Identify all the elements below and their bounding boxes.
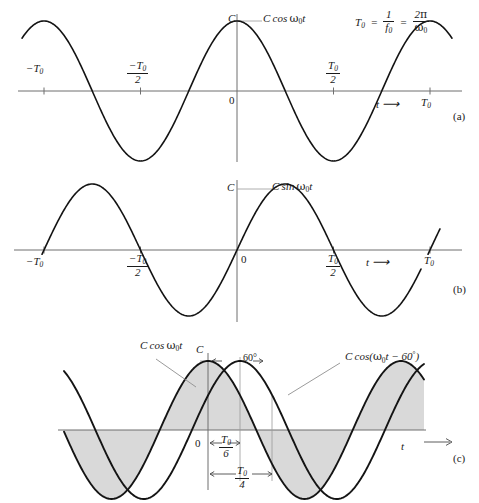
phase-label-c: 60°: [243, 353, 257, 363]
leader-line-cos-shifted-c: [288, 363, 340, 395]
axis-label-b: t ⟶: [366, 256, 389, 268]
dim-label-T0-over-4-c: T04: [235, 465, 249, 491]
origin-label-a: 0: [229, 95, 235, 106]
panel-tag-c: (c): [453, 452, 465, 464]
panel-b-plot: [0, 170, 479, 335]
panel-tag-b: (b): [453, 283, 466, 295]
signal-label-cos-c: C cos ω0t: [140, 340, 182, 353]
origin-label-c: 0: [195, 438, 201, 449]
xtick-label-minus-T0-b: −T0: [26, 256, 43, 269]
xtick-label-T0-b: T0: [424, 255, 434, 268]
origin-label-b: 0: [241, 254, 247, 265]
xtick-label-minus-T0-half-a: −T02: [127, 60, 148, 86]
xtick-label-T0-half-a: T02: [326, 60, 340, 86]
amplitude-label-a: C: [228, 13, 235, 24]
xtick-label-T0-half-b: T02: [326, 253, 340, 279]
amplitude-label-c: C: [196, 344, 203, 355]
t-axis-arrow-c: [424, 439, 452, 446]
xtick-label-minus-T0-half-b: −T02: [127, 253, 148, 279]
amplitude-label-b: C: [227, 182, 234, 193]
signal-label-a: C cos ω0t: [263, 13, 305, 26]
xtick-label-minus-T0-a: −T0: [26, 63, 43, 76]
panel-tag-a: (a): [453, 110, 465, 122]
dim-label-T0-over-6-c: T06: [219, 434, 233, 460]
panel-a-axes: [18, 14, 462, 162]
signal-label-b: C sin ω0t: [272, 181, 312, 194]
axis-label-a: t ⟶: [376, 98, 399, 110]
figure-root: C C cos ω0t 0 T0 = 1f0 = 2πω0 −T0 −T02 T…: [0, 0, 479, 503]
signal-label-cos-shifted-c: C cos(ω0t − 60°): [345, 351, 419, 364]
panel-b-axes: [14, 180, 462, 322]
period-formula-a: T0 = 1f0 = 2πω0: [355, 9, 429, 35]
axis-label-c: t: [401, 441, 404, 452]
xtick-label-T0-a: T0: [421, 97, 431, 110]
